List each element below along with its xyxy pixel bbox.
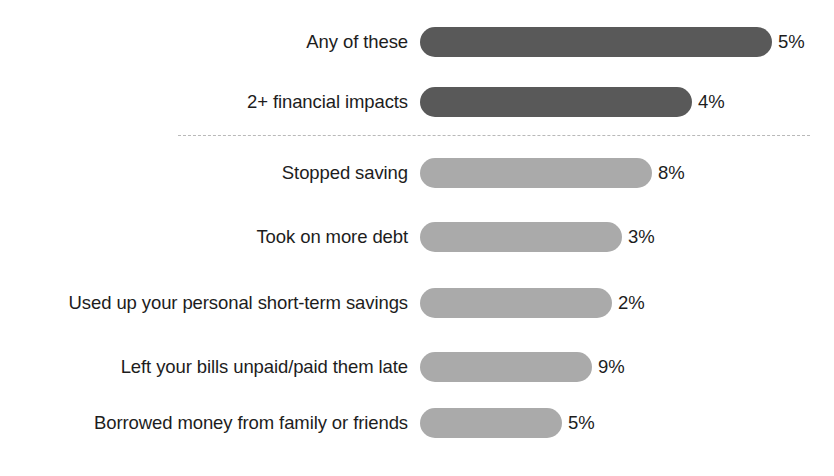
bar-row: Used up your personal short-term savings… (0, 288, 834, 318)
bar-row: Borrowed money from family or friends 5% (0, 408, 834, 438)
bar-row: Left your bills unpaid/paid them late 9% (0, 352, 834, 382)
value-label: 4% (698, 87, 725, 117)
bar-track (420, 408, 562, 438)
category-label: Any of these (0, 27, 408, 57)
bar-track (420, 352, 592, 382)
horizontal-bar-chart: Any of these 5% 2+ financial impacts 4% … (0, 0, 834, 476)
bar-track (420, 87, 692, 117)
bar-row: Stopped saving 8% (0, 158, 834, 188)
bar-stopped-saving (420, 158, 652, 188)
category-label: Used up your personal short-term savings (0, 288, 408, 318)
bar-used-up-personal-short-term-savings (420, 288, 612, 318)
category-label: 2+ financial impacts (0, 87, 408, 117)
bar-track (420, 222, 622, 252)
bar-track (420, 158, 652, 188)
bar-any-of-these (420, 27, 772, 57)
bar-row: Any of these 5% (0, 27, 834, 57)
bar-2-plus-financial-impacts (420, 87, 692, 117)
section-divider (178, 135, 810, 136)
category-label: Took on more debt (0, 222, 408, 252)
value-label: 9% (598, 352, 625, 382)
category-label: Stopped saving (0, 158, 408, 188)
category-label: Left your bills unpaid/paid them late (0, 352, 408, 382)
bar-row: 2+ financial impacts 4% (0, 87, 834, 117)
value-label: 8% (658, 158, 685, 188)
value-label: 3% (628, 222, 655, 252)
bar-track (420, 27, 772, 57)
bar-left-bills-unpaid (420, 352, 592, 382)
value-label: 5% (778, 27, 805, 57)
category-label: Borrowed money from family or friends (0, 408, 408, 438)
bar-borrowed-money-family-friends (420, 408, 562, 438)
bar-track (420, 288, 612, 318)
value-label: 5% (568, 408, 595, 438)
value-label: 2% (618, 288, 645, 318)
bar-row: Took on more debt 3% (0, 222, 834, 252)
bar-took-on-more-debt (420, 222, 622, 252)
